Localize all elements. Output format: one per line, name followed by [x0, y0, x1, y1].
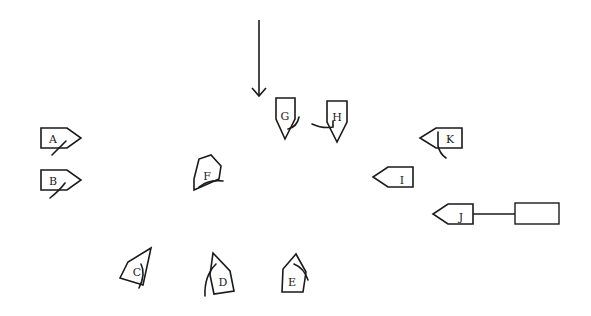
boat-d: D: [205, 253, 234, 296]
boat-label-e: E: [288, 276, 296, 289]
boat-j: J: [433, 204, 473, 224]
boat-c: C: [120, 248, 151, 288]
boat-label-a: A: [48, 133, 58, 146]
boat-label-i: I: [400, 174, 404, 187]
diagram-svg: A B G H K I J F: [0, 0, 591, 316]
committee-boat-mark: [515, 203, 559, 224]
wind-arrow-icon: [252, 20, 266, 96]
boat-label-k: K: [446, 133, 455, 146]
boat-label-f: F: [203, 170, 211, 183]
boat-g: G: [276, 98, 299, 139]
boat-h: H: [312, 101, 347, 142]
sailing-diagram: A B G H K I J F: [0, 0, 591, 316]
boat-label-g: G: [281, 110, 290, 123]
boat-label-j: J: [458, 211, 463, 224]
boat-i: I: [373, 167, 413, 187]
boat-label-b: B: [49, 175, 57, 188]
boat-a: A: [41, 128, 81, 155]
boat-label-d: D: [219, 276, 228, 289]
boat-e: E: [282, 254, 308, 292]
boat-f: F: [194, 155, 223, 190]
boat-k: K: [420, 128, 462, 158]
boat-label-c: C: [133, 266, 141, 279]
boat-b: B: [41, 170, 81, 198]
